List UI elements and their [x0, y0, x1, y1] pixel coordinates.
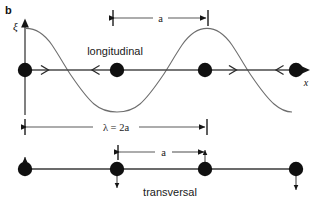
dimension-marker-a-bottom: a	[118, 145, 204, 160]
dimension-marker-wavelength: λ = 2a	[25, 119, 207, 135]
atom-transversal-2	[110, 162, 124, 176]
longitudinal-label: longitudinal	[87, 45, 143, 57]
transversal-label: transversal	[143, 186, 197, 198]
atom-longitudinal-4	[289, 63, 303, 77]
atom-transversal-4	[289, 162, 303, 176]
atom-longitudinal-1	[18, 63, 32, 77]
panel-letter: b	[5, 4, 12, 16]
atom-longitudinal-3	[198, 63, 212, 77]
x-axis-label: x	[303, 77, 309, 88]
wave-diagram-svg: b a ξ x longitudinal	[0, 0, 319, 208]
dimension-marker-a-top: a	[113, 10, 208, 26]
physics-figure-panel-b: b a ξ x longitudinal	[0, 0, 319, 208]
y-axis-label-xi: ξ	[13, 20, 18, 33]
dimension-label-a-top: a	[158, 13, 163, 24]
x-axis: x	[25, 66, 310, 88]
atom-longitudinal-2	[110, 63, 124, 77]
dimension-label-a-bottom: a	[161, 147, 166, 158]
y-axis-arrowhead	[21, 19, 29, 28]
atom-transversal-1	[18, 162, 32, 176]
wavelength-label: λ = 2a	[103, 122, 130, 133]
atom-transversal-3	[198, 162, 212, 176]
